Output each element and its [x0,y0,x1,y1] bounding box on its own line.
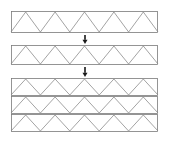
arrow-shaft-1 [84,35,86,40]
flow-arrow-2 [83,67,88,77]
diagram-canvas [0,0,170,141]
truss-stage-2 [11,46,158,65]
arrow-head-1 [83,40,88,44]
truss-web-zigzag-2 [11,46,158,64]
truss-web-zigzag-3-1 [11,79,158,95]
truss-stage-3 [11,79,158,132]
arrow-head-2 [83,73,88,77]
flow-arrow-1 [83,35,88,44]
arrow-shaft-2 [84,67,86,73]
truss-assembly-diagram [0,0,170,141]
truss-stage-1 [11,12,158,33]
truss-web-zigzag-1 [11,12,158,32]
truss-web-zigzag-3-2 [11,97,158,113]
truss-web-zigzag-3-3 [11,115,158,131]
diagram-layers [11,12,158,132]
